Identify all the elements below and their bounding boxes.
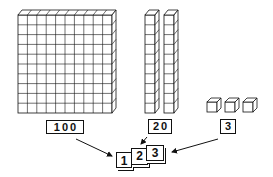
unit-cubes bbox=[207, 98, 257, 112]
card-ones-digit: 3 bbox=[146, 145, 164, 161]
unit-cube-3 bbox=[243, 98, 257, 112]
card-hundreds-digit: 1 bbox=[116, 152, 132, 168]
arrow-hundreds bbox=[76, 139, 112, 156]
label-tens: 20 bbox=[148, 119, 172, 134]
unit-cube-2 bbox=[225, 98, 239, 112]
label-ones: 3 bbox=[220, 119, 236, 134]
arrow-tens bbox=[141, 137, 147, 144]
hundred-flat bbox=[18, 10, 116, 113]
ten-rod-1 bbox=[145, 10, 159, 113]
arrow-ones bbox=[172, 139, 218, 152]
ten-rod-2 bbox=[164, 10, 178, 113]
unit-cube-1 bbox=[207, 98, 221, 112]
label-hundreds: 100 bbox=[46, 120, 84, 134]
